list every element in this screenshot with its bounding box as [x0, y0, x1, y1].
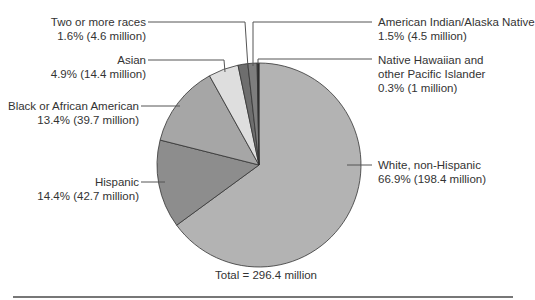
- leader-line-asian: [148, 60, 225, 72]
- label-native-hawaiian-pacific-islander: Native Hawaiian and other Pacific Island…: [378, 53, 485, 95]
- label-asian: Asian 4.9% (14.4 million): [51, 53, 146, 81]
- label-name: Two or more races: [51, 15, 146, 29]
- label-value: 14.4% (42.7 million): [37, 189, 139, 203]
- bottom-rule: [13, 296, 513, 298]
- leader-line-two-or-more: [148, 22, 248, 68]
- label-name: White, non-Hispanic: [378, 158, 486, 172]
- label-value: 0.3% (1 million): [378, 81, 485, 95]
- total-label: Total = 296.4 million: [0, 269, 532, 281]
- leader-line-native-hawaiian: [258, 59, 372, 64]
- label-name-2: other Pacific Islander: [378, 67, 485, 81]
- label-value: 13.4% (39.7 million): [8, 113, 139, 127]
- label-name: American Indian/Alaska Native: [378, 15, 535, 29]
- label-two-or-more-races: Two or more races 1.6% (4.6 million): [51, 15, 146, 43]
- label-value: 66.9% (198.4 million): [378, 172, 486, 186]
- label-name: Native Hawaiian and: [378, 53, 485, 67]
- label-black-or-african-american: Black or African American 13.4% (39.7 mi…: [8, 99, 139, 127]
- label-name: Asian: [51, 53, 146, 67]
- label-american-indian-alaska-native: American Indian/Alaska Native 1.5% (4.5 …: [378, 15, 535, 43]
- label-white-non-hispanic: White, non-Hispanic 66.9% (198.4 million…: [378, 158, 486, 186]
- label-value: 4.9% (14.4 million): [51, 67, 146, 81]
- label-hispanic: Hispanic 14.4% (42.7 million): [37, 175, 139, 203]
- pie-slices: [157, 63, 361, 267]
- label-value: 1.6% (4.6 million): [51, 29, 146, 43]
- label-value: 1.5% (4.5 million): [378, 29, 535, 43]
- label-name: Hispanic: [37, 175, 139, 189]
- label-name: Black or African American: [8, 99, 139, 113]
